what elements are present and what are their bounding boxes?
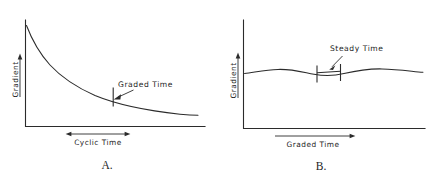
panel-a-annotation-arrowhead [114,94,121,99]
panel-b: Steady Time Gradient Graded Time B. [229,20,425,172]
panel-b-caption: B. [316,160,327,172]
panel-b-y-axis-group: Gradient [229,53,241,99]
panel-a-annotation-label: Graded Time [118,80,173,89]
panel-b-x-axis-group: Graded Time [275,134,355,149]
panel-b-y-axis-label: Gradient [229,62,238,98]
panel-a: Graded Time Gradient Cyclic Time A. [11,20,205,171]
panel-b-steady-time-connector [317,71,341,73]
panel-a-x-span-arrowhead-right [125,132,131,136]
panel-a-gradient-curve [27,26,199,116]
panel-a-y-axis-label: Gradient [11,61,20,97]
panel-a-axes [26,20,206,127]
panel-a-caption: A. [101,159,112,171]
panel-a-y-span-arrowhead-up [18,54,23,60]
figure-container: Graded Time Gradient Cyclic Time A. [0,0,431,176]
panel-b-y-span-arrowhead-up [236,53,241,59]
two-panel-figure: Graded Time Gradient Cyclic Time A. [0,0,431,176]
panel-a-x-span-arrowhead-left [66,132,72,136]
panel-b-x-span-arrowhead-right [350,134,356,138]
panel-a-y-axis-group: Gradient [11,54,23,98]
panel-b-x-axis-label: Graded Time [286,140,339,149]
panel-b-gradient-curve [245,69,424,76]
panel-a-x-axis-group: Cyclic Time [66,132,131,147]
panel-b-annotation-label: Steady Time [330,44,384,53]
panel-a-x-axis-label: Cyclic Time [74,138,122,147]
panel-b-axes [244,20,426,129]
